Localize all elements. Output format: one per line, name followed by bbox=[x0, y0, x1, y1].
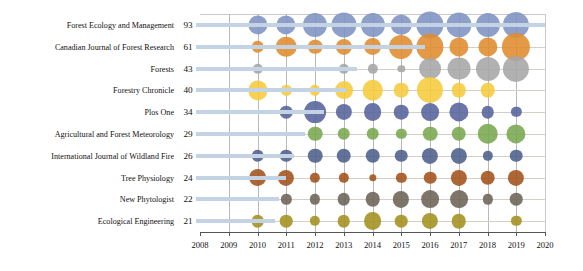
bubble-point bbox=[339, 172, 349, 182]
category-magnitude-bar bbox=[196, 176, 286, 180]
category-magnitude-bar bbox=[196, 88, 346, 92]
bubble-point bbox=[337, 128, 350, 141]
bubble-point bbox=[369, 174, 376, 181]
x-axis-tick bbox=[516, 232, 517, 236]
x-axis-tick-label: 2009 bbox=[220, 240, 237, 250]
bubble-point bbox=[510, 149, 523, 162]
bubble-point bbox=[336, 148, 351, 163]
x-axis-tick-label: 2020 bbox=[536, 240, 553, 250]
bubble-point bbox=[451, 127, 466, 142]
bubble-point bbox=[424, 171, 437, 184]
bubble-point bbox=[421, 103, 439, 121]
x-axis-tick-label: 2008 bbox=[191, 240, 208, 250]
bubble-point bbox=[423, 127, 438, 142]
x-axis-tick bbox=[315, 232, 316, 236]
bubble-point bbox=[417, 77, 443, 103]
bubble-point bbox=[449, 102, 468, 121]
category-total-count: 29 bbox=[178, 129, 198, 139]
bubble-point bbox=[310, 216, 320, 226]
y-axis-category-label: Tree Physiology bbox=[121, 173, 174, 182]
y-axis-labels: Forest Ecology and ManagementCanadian Jo… bbox=[0, 0, 178, 271]
bubble-point bbox=[451, 169, 467, 185]
bubble-point bbox=[367, 63, 377, 73]
category-magnitude-bar bbox=[196, 132, 305, 136]
bubble-point bbox=[362, 80, 383, 101]
bubble-point bbox=[478, 37, 497, 56]
x-axis-tick bbox=[373, 232, 374, 236]
bubble-point bbox=[308, 148, 323, 163]
x-axis-tick bbox=[344, 232, 345, 236]
bubble-point bbox=[310, 194, 320, 204]
bubble-point bbox=[421, 190, 439, 208]
category-magnitude-bar bbox=[196, 45, 425, 49]
x-axis-tick-label: 2016 bbox=[421, 240, 438, 250]
bubble-point bbox=[281, 194, 291, 204]
bubble-point bbox=[503, 55, 529, 81]
y-axis-category-label: Plos One bbox=[145, 108, 174, 117]
x-axis-tick-label: 2018 bbox=[479, 240, 496, 250]
bubble-point bbox=[480, 83, 495, 98]
y-axis-category-label: International Journal of Wildland Fire bbox=[51, 151, 174, 160]
bubble-point bbox=[396, 172, 406, 182]
category-magnitude-bar bbox=[196, 23, 545, 27]
x-axis-tick-label: 2015 bbox=[393, 240, 410, 250]
category-total-count: 22 bbox=[178, 194, 198, 204]
bubble-point bbox=[511, 216, 521, 226]
bubble-chart: Forest Ecology and ManagementCanadian Jo… bbox=[0, 0, 583, 271]
category-magnitude-bar bbox=[196, 67, 357, 71]
bubble-point bbox=[395, 215, 408, 228]
bubble-point bbox=[365, 148, 380, 163]
x-axis-tick bbox=[459, 232, 460, 236]
y-axis-category-label: Canadian Journal of Forest Research bbox=[55, 42, 174, 51]
bubble-point bbox=[280, 215, 293, 228]
bubble-point bbox=[364, 103, 382, 121]
category-total-count: 34 bbox=[178, 107, 198, 117]
bubble-point bbox=[477, 124, 498, 145]
plot-right-border bbox=[545, 14, 546, 232]
y-axis-category-label: Ecological Engineering bbox=[98, 217, 174, 226]
y-axis-category-label: Forest Ecology and Management bbox=[67, 20, 174, 29]
bubble-point bbox=[394, 83, 409, 98]
y-axis-category-label: New Phytologist bbox=[120, 195, 174, 204]
bubble-point bbox=[451, 83, 466, 98]
bubble-point bbox=[398, 65, 405, 72]
bubble-point bbox=[511, 107, 521, 117]
category-total-count: 21 bbox=[178, 216, 198, 226]
x-axis-tick bbox=[545, 232, 546, 236]
y-axis-category-label: Forestry Chronicle bbox=[113, 86, 174, 95]
category-total-count: 43 bbox=[178, 64, 198, 74]
bubble-point bbox=[364, 212, 382, 230]
bubble-point bbox=[308, 127, 323, 142]
bubble-point bbox=[394, 105, 409, 120]
category-magnitude-bar bbox=[196, 219, 275, 223]
x-axis-tick-label: 2011 bbox=[278, 240, 295, 250]
category-magnitude-bar bbox=[196, 197, 279, 201]
x-axis-tick bbox=[286, 232, 287, 236]
bubble-point bbox=[450, 190, 468, 208]
category-magnitude-bar bbox=[196, 154, 294, 158]
x-axis-tick-label: 2014 bbox=[364, 240, 381, 250]
bubble-point bbox=[482, 151, 492, 161]
bubble-point bbox=[396, 129, 406, 139]
bubble-point bbox=[482, 194, 492, 204]
category-magnitude-bar bbox=[196, 110, 324, 114]
x-axis-tick bbox=[401, 232, 402, 236]
bubble-point bbox=[365, 192, 380, 207]
bubble-point bbox=[310, 172, 320, 182]
x-axis-tick bbox=[488, 232, 489, 236]
bubble-point bbox=[422, 213, 438, 229]
x-axis-tick-label: 2012 bbox=[306, 240, 323, 250]
category-total-count: 26 bbox=[178, 151, 198, 161]
category-total-count: 24 bbox=[178, 173, 198, 183]
bubble-point bbox=[475, 56, 499, 80]
bubble-point bbox=[480, 170, 495, 185]
x-axis-tick-label: 2017 bbox=[450, 240, 467, 250]
category-total-count: 93 bbox=[178, 20, 198, 30]
bubble-point bbox=[508, 169, 524, 185]
bubble-point bbox=[510, 193, 523, 206]
bubble-point bbox=[422, 148, 438, 164]
bubble-point bbox=[447, 57, 470, 80]
category-total-count: 61 bbox=[178, 42, 198, 52]
x-axis-tick bbox=[258, 232, 259, 236]
x-axis-tick bbox=[430, 232, 431, 236]
